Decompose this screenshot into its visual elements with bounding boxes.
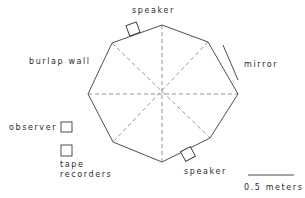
scale-label: 0.5 meters: [244, 183, 304, 193]
diagonal-ul-lr: [112, 43, 210, 138]
diagram-svg: [0, 0, 305, 198]
mirror-line: [223, 45, 238, 80]
booth-diagram: speaker burlap wall mirror observer tape…: [0, 0, 305, 198]
octagon-room-outline: [88, 25, 238, 162]
speaker-bottom-label: speaker: [184, 167, 227, 177]
speaker-top-label: speaker: [132, 6, 175, 16]
tape-recorders-label-line1: tape: [60, 160, 84, 170]
mirror-label: mirror: [244, 60, 278, 70]
diagonal-ur-ll: [113, 42, 208, 142]
observer-label: observer: [9, 123, 57, 133]
tape-recorders-label-line2: recorders: [60, 170, 112, 180]
tape-recorders-icon: [61, 145, 72, 156]
burlap-wall-label: burlap wall: [29, 57, 91, 67]
observer-icon: [61, 122, 72, 132]
speaker-bottom-icon: [181, 147, 196, 162]
